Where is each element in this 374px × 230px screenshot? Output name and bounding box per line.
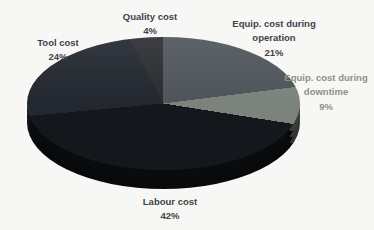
- slice-label-text: Equip. cost during operation: [224, 17, 324, 46]
- slice-label-pct: 4%: [104, 24, 196, 38]
- slice-label-text: Equip. cost during downtime: [278, 71, 374, 100]
- slice-label-text: Labour cost: [128, 195, 212, 209]
- slice-label-pct: 42%: [128, 209, 212, 223]
- slice-label-equip-cost-operation: Equip. cost during operation 21%: [224, 17, 324, 60]
- slice-label-text: Tool cost: [16, 36, 100, 50]
- slice-label-tool-cost: Tool cost 24%: [16, 36, 100, 65]
- slice-label-pct: 24%: [16, 50, 100, 64]
- slice-label-pct: 21%: [224, 46, 324, 60]
- slice-label-quality-cost: Quality cost 4%: [104, 10, 196, 39]
- slice-label-pct: 9%: [278, 100, 374, 114]
- slice-label-text: Quality cost: [104, 10, 196, 24]
- slice-label-equip-cost-downtime: Equip. cost during downtime 9%: [278, 71, 374, 114]
- pie-chart: Quality cost 4% Equip. cost during opera…: [0, 0, 374, 230]
- slice-label-labour-cost: Labour cost 42%: [128, 195, 212, 224]
